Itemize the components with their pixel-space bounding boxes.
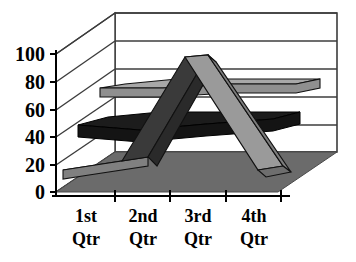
category-label-3-line2: Qtr	[184, 229, 212, 249]
value-axis-label-20: 20	[25, 154, 45, 176]
value-axis-label-100: 100	[15, 43, 45, 65]
category-axis: 1st Qtr 2nd Qtr 3rd Qtr 4th Qtr	[52, 190, 290, 249]
value-axis-label-0: 0	[35, 181, 45, 203]
chart-canvas: 100 80 60 40 20 0 1st Qtr 2nd Qtr 3rd Qt…	[0, 0, 356, 262]
category-label-4-line1: 4th	[241, 206, 266, 226]
category-label-1-line2: Qtr	[72, 229, 100, 249]
category-label-1-line1: 1st	[75, 206, 97, 226]
value-axis-label-60: 60	[25, 99, 45, 121]
value-axis-label-80: 80	[25, 71, 45, 93]
category-label-2-line2: Qtr	[129, 229, 157, 249]
category-label-2-line1: 2nd	[128, 206, 157, 226]
value-axis-label-40: 40	[25, 126, 45, 148]
category-label-4-line2: Qtr	[240, 229, 268, 249]
category-label-3-line1: 3rd	[185, 206, 212, 226]
value-axis: 100 80 60 40 20 0	[15, 43, 56, 203]
chart-container: 100 80 60 40 20 0 1st Qtr 2nd Qtr 3rd Qt…	[0, 0, 356, 262]
